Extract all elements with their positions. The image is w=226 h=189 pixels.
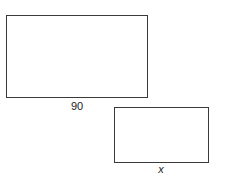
large-rectangle: [6, 15, 148, 98]
small-rectangle-label: x: [146, 163, 176, 175]
small-rectangle: [114, 107, 209, 163]
large-rectangle-label: 90: [62, 100, 92, 112]
